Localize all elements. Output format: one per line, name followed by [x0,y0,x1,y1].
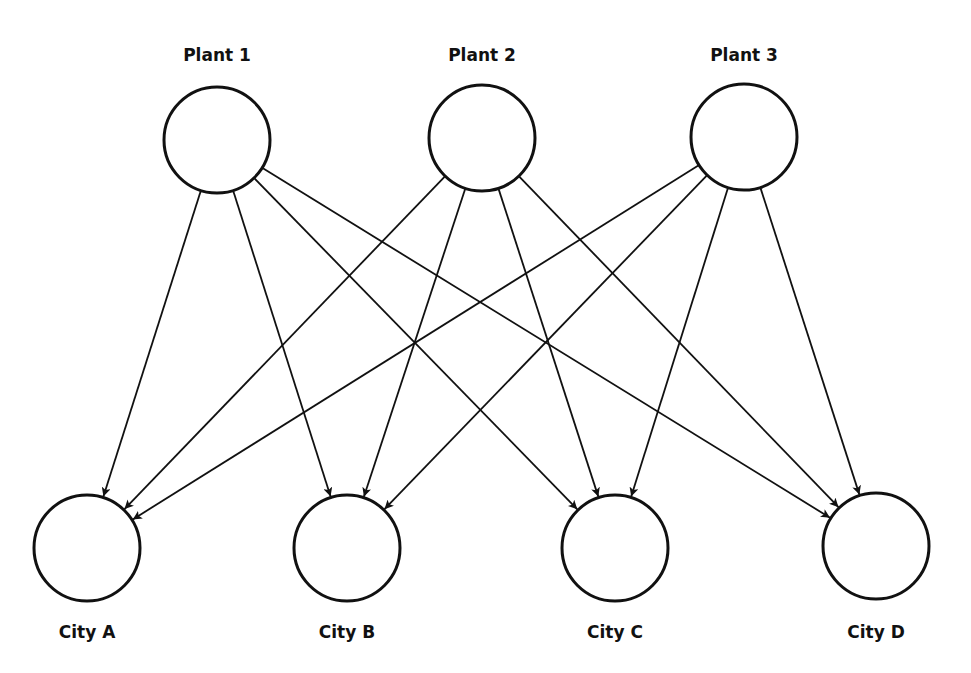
plant-node-p3: Plant 3 [691,45,797,190]
nodes: Plant 1Plant 2Plant 3City ACity BCity CC… [34,45,929,642]
edges [103,165,859,519]
city-node-c: City C [562,495,668,642]
edge-p3-to-c [631,188,728,497]
city-node-b: City B [294,495,400,642]
node-label: Plant 1 [183,45,251,65]
node-circle [562,495,668,601]
edge-p1-to-a [103,191,200,497]
node-circle [164,87,270,193]
node-label: Plant 3 [710,45,778,65]
node-circle [823,493,929,599]
node-label: City C [587,622,643,642]
edge-p1-to-b [233,191,331,497]
edge-p2-to-c [498,188,598,496]
plant-node-p1: Plant 1 [164,45,270,193]
city-node-a: City A [34,495,140,642]
transport-network-diagram: Plant 1Plant 2Plant 3City ACity BCity CC… [0,0,971,673]
edge-p3-to-d [760,187,859,494]
node-circle [691,84,797,190]
edge-p3-to-a [133,165,699,519]
edge-p2-to-a [125,176,446,509]
edge-p3-to-b [385,175,708,509]
node-circle [294,495,400,601]
plant-node-p2: Plant 2 [429,45,535,191]
node-circle [429,85,535,191]
node-label: City A [59,622,116,642]
edge-p2-to-d [519,176,839,507]
node-circle [34,495,140,601]
city-node-d: City D [823,493,929,642]
edge-p1-to-c [254,178,577,509]
node-label: Plant 2 [448,45,516,65]
node-label: City D [847,622,905,642]
node-label: City B [319,622,375,642]
